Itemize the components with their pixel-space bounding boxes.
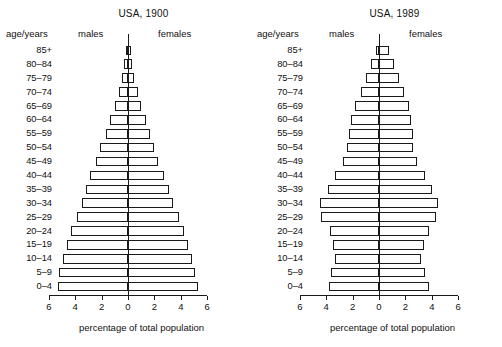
bar-males (366, 73, 379, 83)
age-group-label: 60–64 (0, 113, 52, 127)
bar-females (379, 226, 429, 236)
pyramid-rows: 85+80–8475–7970–7465–6960–6455–5950–5445… (251, 44, 502, 294)
bar-females (128, 268, 195, 278)
bar-females (379, 73, 399, 83)
pyramid-row: 80–84 (0, 58, 251, 72)
bar-females (379, 143, 413, 153)
bar-males (333, 240, 379, 250)
age-group-label: 80–84 (0, 58, 52, 72)
pyramid-row: 60–64 (251, 113, 502, 127)
x-axis-tick (181, 296, 182, 300)
age-group-label: 75–79 (0, 72, 52, 86)
bar-females (128, 240, 188, 250)
bar-males (349, 129, 379, 139)
bar-females (379, 212, 436, 222)
age-group-label: 0–4 (251, 280, 303, 294)
pyramid-row: 25–29 (251, 211, 502, 225)
bar-females (128, 171, 164, 181)
bar-females (128, 101, 141, 111)
x-axis-tick (326, 296, 327, 300)
bar-males (71, 226, 128, 236)
age-group-label: 15–19 (0, 238, 52, 252)
pyramid-row: 55–59 (251, 127, 502, 141)
pyramid-row: 50–54 (0, 141, 251, 155)
bar-females (379, 129, 413, 139)
x-axis-tick-label: 2 (343, 301, 363, 312)
pyramid-row: 65–69 (0, 100, 251, 114)
bar-females (128, 129, 150, 139)
bar-females (379, 157, 417, 167)
x-axis-tick-label: 0 (118, 301, 138, 312)
pyramid-row: 35–39 (0, 183, 251, 197)
age-group-label: 0–4 (0, 280, 52, 294)
bar-males (343, 157, 379, 167)
pyramid-row: 0–4 (251, 280, 502, 294)
x-axis-tick-label: 0 (369, 301, 389, 312)
bar-females (128, 198, 173, 208)
pyramid-row: 35–39 (251, 183, 502, 197)
bar-females (379, 240, 424, 250)
age-group-label: 25–29 (0, 211, 52, 225)
x-axis-tick-label: 4 (171, 301, 191, 312)
bar-females (128, 87, 138, 97)
population-pyramid-figure: USA, 1900 age/years males females 85+80–… (0, 0, 502, 347)
age-group-label: 10–14 (0, 252, 52, 266)
age-group-label: 50–54 (251, 141, 303, 155)
bar-females (379, 115, 411, 125)
age-group-label: 40–44 (251, 169, 303, 183)
pyramid-row: 70–74 (251, 86, 502, 100)
pyramid-row: 55–59 (0, 127, 251, 141)
center-axis-line (128, 34, 129, 295)
bar-females (379, 87, 404, 97)
pyramid-row: 45–49 (251, 155, 502, 169)
x-axis-tick (75, 296, 76, 300)
chart-panel-1989: USA, 1989 age/years males females 85+80–… (251, 0, 502, 347)
age-group-label: 65–69 (251, 100, 303, 114)
x-axis-tick-label: 6 (448, 301, 468, 312)
bar-females (379, 282, 429, 292)
pyramid-rows: 85+80–8475–7970–7465–6960–6455–5950–5445… (0, 44, 251, 294)
pyramid-row: 20–24 (251, 225, 502, 239)
pyramid-row: 50–54 (251, 141, 502, 155)
pyramid-row: 70–74 (0, 86, 251, 100)
bar-females (379, 171, 425, 181)
pyramid-row: 45–49 (0, 155, 251, 169)
pyramid-row: 65–69 (251, 100, 502, 114)
x-axis-tick-label: 6 (197, 301, 217, 312)
bar-males (347, 143, 379, 153)
pyramid-row: 20–24 (0, 225, 251, 239)
age-group-label: 35–39 (0, 183, 52, 197)
pyramid-row: 25–29 (0, 211, 251, 225)
plot-area: 85+80–8475–7970–7465–6960–6455–5950–5445… (0, 0, 251, 347)
bar-females (128, 226, 184, 236)
x-axis-caption: percentage of total population (0, 322, 267, 333)
age-group-label: 55–59 (251, 127, 303, 141)
pyramid-row: 75–79 (251, 72, 502, 86)
x-axis-tick (49, 296, 50, 300)
pyramid-row: 5–9 (0, 266, 251, 280)
bar-males (371, 59, 379, 69)
bar-males (96, 157, 128, 167)
age-group-label: 50–54 (0, 141, 52, 155)
bar-males (82, 198, 128, 208)
bar-males (77, 212, 128, 222)
pyramid-row: 40–44 (0, 169, 251, 183)
bar-females (379, 101, 409, 111)
bar-males (67, 240, 128, 250)
bar-males (106, 129, 128, 139)
bar-males (355, 101, 379, 111)
x-axis-tick-label: 2 (92, 301, 112, 312)
age-group-label: 85+ (251, 44, 303, 58)
x-axis-tick-label: 4 (65, 301, 85, 312)
bar-females (379, 59, 394, 69)
x-axis-tick (154, 296, 155, 300)
bar-males (86, 185, 128, 195)
x-axis-tick-label: 4 (422, 301, 442, 312)
bar-males (361, 87, 379, 97)
age-group-label: 70–74 (0, 86, 52, 100)
bar-males (110, 115, 128, 125)
pyramid-row: 40–44 (251, 169, 502, 183)
bar-males (58, 282, 128, 292)
x-axis-tick-label: 2 (144, 301, 164, 312)
x-axis-tick (405, 296, 406, 300)
